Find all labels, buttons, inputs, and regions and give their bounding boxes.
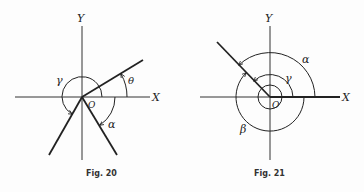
- theta-arc: [121, 74, 127, 97]
- x-axis-label: X: [341, 91, 351, 104]
- beta-label: β: [239, 123, 246, 136]
- diagram-canvas: Y X O θ γ α Fig. 20 Y X O α γ: [0, 0, 364, 192]
- figure-20: Y X O θ γ α Fig. 20: [15, 12, 161, 178]
- x-axis-label: X: [151, 91, 161, 104]
- gamma-label: γ: [56, 74, 63, 87]
- alpha-label: α: [302, 53, 310, 66]
- figure-caption: Fig. 21: [254, 169, 285, 178]
- figure-21: Y X O α γ β Fig. 21: [200, 12, 351, 178]
- figure-caption: Fig. 20: [86, 169, 117, 178]
- gamma-terminal-ray: [49, 97, 82, 155]
- alpha-label: α: [108, 118, 116, 131]
- gamma-label: γ: [285, 72, 292, 85]
- y-axis-label: Y: [77, 12, 86, 25]
- theta-label: θ: [128, 75, 134, 86]
- terminal-ray: [217, 42, 270, 97]
- y-axis-label: Y: [265, 12, 274, 25]
